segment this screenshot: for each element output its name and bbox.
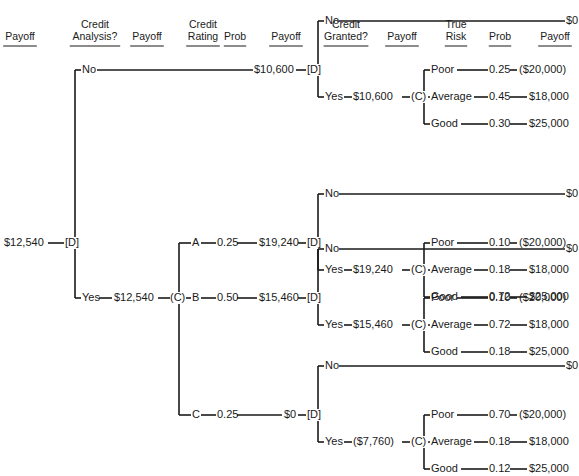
grant-no-label: No (325, 359, 339, 371)
decision-node: [D] (307, 408, 321, 420)
risk-payoff: ($20,000) (519, 236, 566, 248)
column-header: Credit (189, 18, 217, 30)
column-header: Payoff (5, 30, 35, 42)
risk-prob: 0.45 (489, 90, 510, 102)
decision-node: [D] (307, 63, 321, 75)
decision-tree: PayoffCreditAnalysis?PayoffCreditRatingP… (0, 0, 579, 476)
grant-no-payoff: $0 (566, 242, 578, 254)
grant-yes-label: Yes (325, 318, 343, 330)
column-header: Payoff (132, 30, 162, 42)
chance-node: (C) (170, 291, 185, 303)
risk-payoff: $25,000 (529, 462, 569, 474)
risk-payoff: $18,000 (529, 90, 569, 102)
risk-prob: 0.10 (489, 236, 510, 248)
grant-yes-label: Yes (325, 263, 343, 275)
chance-node: (C) (411, 318, 426, 330)
risk-label: Good (431, 345, 458, 357)
decision-node: [D] (307, 291, 321, 303)
column-header: Rating (188, 30, 219, 42)
root-payoff: $12,540 (4, 236, 44, 248)
risk-prob: 0.10 (489, 291, 510, 303)
rating-payoff: $0 (284, 408, 296, 420)
analysis-payoff: $12,540 (114, 291, 154, 303)
risk-label: Average (431, 318, 472, 330)
grant-no-label: No (325, 187, 339, 199)
grant-no-payoff: $0 (566, 359, 578, 371)
column-header: True (445, 18, 466, 30)
risk-label: Poor (431, 291, 455, 303)
column-header: Prob (489, 30, 511, 42)
risk-label: Average (431, 435, 472, 447)
risk-label: Poor (431, 408, 455, 420)
risk-prob: 0.18 (489, 345, 510, 357)
column-header: Risk (446, 30, 467, 42)
chance-node: (C) (411, 435, 426, 447)
column-header: Credit (81, 18, 109, 30)
risk-label: Good (431, 462, 458, 474)
grant-yes-label: Yes (325, 435, 343, 447)
risk-label: Average (431, 90, 472, 102)
risk-payoff: ($20,000) (519, 291, 566, 303)
grant-no-payoff: $0 (566, 14, 578, 26)
no-analysis-payoff: $10,600 (254, 63, 294, 75)
rating-prob: 0.25 (217, 408, 238, 420)
rating-payoff: $15,460 (259, 291, 299, 303)
risk-label: Good (431, 117, 458, 129)
risk-prob: 0.18 (489, 435, 510, 447)
risk-payoff: $25,000 (529, 117, 569, 129)
column-header: Payoff (540, 30, 570, 42)
risk-payoff: $18,000 (529, 263, 569, 275)
grant-no-label: No (325, 14, 339, 26)
risk-prob: 0.25 (489, 63, 510, 75)
column-header: Payoff (387, 30, 417, 42)
chance-node: (C) (411, 263, 426, 275)
root-decision-node: [D] (65, 236, 79, 248)
column-header: Granted? (324, 30, 368, 42)
grant-yes-payoff: $15,460 (353, 318, 393, 330)
grant-yes-payoff: ($7,760) (353, 435, 394, 447)
branch-no-label: No (82, 63, 96, 75)
risk-prob: 0.18 (489, 263, 510, 275)
rating-label: A (192, 236, 200, 248)
risk-label: Average (431, 263, 472, 275)
rating-prob: 0.50 (217, 291, 238, 303)
rating-label: C (192, 408, 200, 420)
rating-payoff: $19,240 (259, 236, 299, 248)
risk-prob: 0.12 (489, 462, 510, 474)
decision-node: [D] (307, 236, 321, 248)
rating-prob: 0.25 (217, 236, 238, 248)
risk-payoff: $25,000 (529, 345, 569, 357)
column-header: Analysis? (73, 30, 118, 42)
grant-no-label: No (325, 242, 339, 254)
risk-prob: 0.30 (489, 117, 510, 129)
risk-payoff: ($20,000) (519, 408, 566, 420)
risk-label: Poor (431, 63, 455, 75)
risk-payoff: ($20,000) (519, 63, 566, 75)
risk-prob: 0.70 (489, 408, 510, 420)
risk-payoff: $18,000 (529, 318, 569, 330)
chance-node: (C) (411, 90, 426, 102)
rating-label: B (192, 291, 199, 303)
grant-yes-label: Yes (325, 90, 343, 102)
column-header: Prob (224, 30, 246, 42)
risk-label: Poor (431, 236, 455, 248)
grant-yes-payoff: $10,600 (353, 90, 393, 102)
branch-yes-label: Yes (82, 291, 100, 303)
column-header: Payoff (271, 30, 301, 42)
grant-yes-payoff: $19,240 (353, 263, 393, 275)
risk-payoff: $18,000 (529, 435, 569, 447)
grant-no-payoff: $0 (566, 187, 578, 199)
risk-prob: 0.72 (489, 318, 510, 330)
